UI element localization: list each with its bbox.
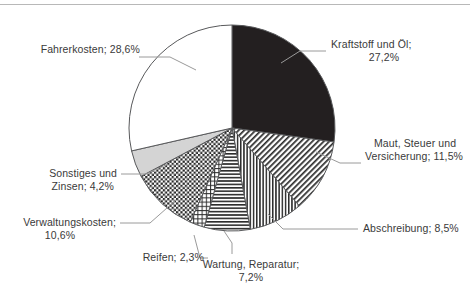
slice-label-verwaltung: Verwaltungskosten; 10,6% bbox=[8, 216, 116, 242]
slice-label-maut: Maut, Steuer und Versicherung; 11,5% bbox=[365, 137, 469, 163]
slice-label-maut-line1: Maut, Steuer und bbox=[365, 137, 465, 150]
slice-label-reifen-line1: Reifen; 2,3% bbox=[143, 251, 204, 263]
slice-label-verwaltung-line1: Verwaltungskosten; bbox=[23, 216, 116, 228]
slice-label-kraftstoff-line1: Kraftstoff und Öl; bbox=[331, 38, 411, 50]
slice-label-sonstiges-line1: Sonstiges und bbox=[49, 167, 117, 179]
slice-label-sonstiges-line2: Zinsen; 4,2% bbox=[15, 180, 117, 193]
pie-slice bbox=[129, 25, 232, 151]
slice-label-verwaltung-line2: 10,6% bbox=[8, 229, 112, 242]
slice-label-maut-line2: Versicherung; 11,5% bbox=[365, 150, 469, 163]
leader-line-wartung bbox=[224, 231, 232, 254]
slice-label-kraftstoff: Kraftstoff und Öl; 27,2% bbox=[331, 38, 463, 64]
slice-label-reifen: Reifen; 2,3% bbox=[104, 251, 204, 264]
slice-label-fahrerkosten: Fahrerkosten; 28,6% bbox=[12, 43, 140, 56]
slice-label-abschreibung: Abschreibung; 8,5% bbox=[363, 222, 469, 235]
pie-slices bbox=[129, 25, 335, 231]
pie-slice bbox=[232, 25, 335, 142]
slice-label-fahrerkosten-line1: Fahrerkosten; 28,6% bbox=[41, 43, 140, 55]
slice-label-sonstiges: Sonstiges und Zinsen; 4,2% bbox=[15, 167, 117, 193]
slice-label-wartung-line1: Wartung, Reparatur; bbox=[203, 258, 300, 270]
pie-chart-figure: Fahrerkosten; 28,6% Kraftstoff und Öl; 2… bbox=[0, 0, 470, 296]
slice-label-kraftstoff-line2: 27,2% bbox=[331, 51, 437, 64]
slice-label-wartung-line2: 7,2% bbox=[196, 271, 306, 284]
slice-label-abschreibung-line1: Abschreibung; 8,5% bbox=[363, 222, 459, 234]
slice-label-wartung: Wartung, Reparatur; 7,2% bbox=[196, 258, 306, 284]
